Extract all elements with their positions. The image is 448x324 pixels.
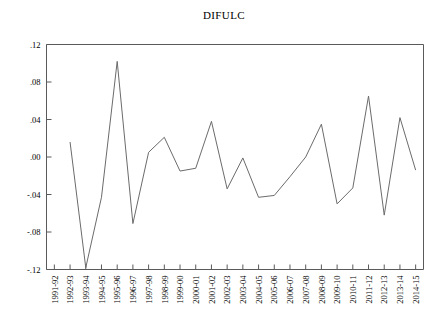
x-tick-label: 2002-03 <box>222 276 232 304</box>
x-tick-label: 2007-08 <box>301 276 311 304</box>
x-tick-label: 1996-97 <box>128 276 138 304</box>
y-tick-label: -.08 <box>27 227 40 237</box>
x-tick-label: 2010-11 <box>348 276 358 304</box>
y-tick-label: .04 <box>30 115 41 125</box>
x-tick-label: 2011-12 <box>364 276 374 304</box>
x-tick-label: 1992-93 <box>65 276 75 304</box>
x-tick-label: 2014-15 <box>411 276 421 304</box>
chart-container: DIFULC .12.08.04.00-.04-.08-.12 1991-921… <box>0 0 448 324</box>
x-tick-label: 2005-06 <box>269 276 279 304</box>
x-tick-label: 2012-13 <box>379 276 389 304</box>
x-tick-label: 2006-07 <box>285 276 295 304</box>
y-axis-tick-group <box>47 45 52 270</box>
x-tick-label: 1993-94 <box>81 275 91 304</box>
x-tick-label: 1994-95 <box>97 276 107 304</box>
x-axis-labels: 1991-921992-931993-941994-951995-961996-… <box>50 275 421 304</box>
x-tick-label: 1999-00 <box>175 276 185 304</box>
y-axis-labels: .12.08.04.00-.04-.08-.12 <box>27 40 41 275</box>
x-tick-label: 2008-09 <box>317 276 327 304</box>
x-tick-label: 2000-01 <box>191 276 201 304</box>
data-series-line <box>70 61 416 267</box>
x-tick-label: 2001-02 <box>207 276 217 304</box>
x-tick-label: 1991-92 <box>50 276 60 304</box>
x-tick-label: 2013-14 <box>395 275 405 304</box>
x-tick-label: 1998-99 <box>160 276 170 304</box>
y-tick-label: -.12 <box>27 265 40 275</box>
x-tick-label: 1995-96 <box>112 276 122 304</box>
axis-frame <box>47 45 424 270</box>
x-axis-tick-group <box>54 265 415 270</box>
x-tick-label: 2009-10 <box>332 276 342 304</box>
y-tick-label: .12 <box>30 40 41 50</box>
y-tick-label: -.04 <box>27 190 41 200</box>
x-tick-label: 2003-04 <box>238 275 248 304</box>
y-tick-label: .08 <box>30 77 41 87</box>
x-tick-label: 2004-05 <box>254 276 264 304</box>
y-tick-label: .00 <box>30 152 41 162</box>
x-tick-label: 1997-98 <box>144 276 154 304</box>
line-chart-plot: .12.08.04.00-.04-.08-.12 1991-921992-931… <box>0 0 448 324</box>
